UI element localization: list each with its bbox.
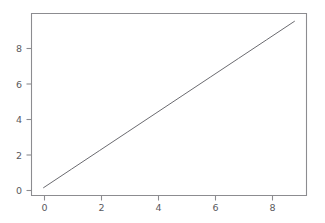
x-tick-label-0: 0	[41, 202, 47, 213]
x-tick-label-3: 6	[212, 202, 218, 213]
y-tick-label-4: 8	[16, 43, 22, 54]
x-tick-label-4: 8	[269, 202, 275, 213]
y-tick-label-1: 2	[16, 150, 22, 161]
y-tick-label-2: 4	[16, 114, 22, 125]
line-chart: 0 2 4 6 8 0 2 4 6 8	[0, 0, 325, 223]
x-tick-label-1: 2	[98, 202, 104, 213]
figure-canvas: s Plots an an on inn ra sa no er sorte a…	[0, 0, 325, 223]
y-tick-label-3: 6	[16, 79, 22, 90]
x-tick-label-2: 4	[155, 202, 161, 213]
y-tick-label-0: 0	[16, 185, 22, 196]
